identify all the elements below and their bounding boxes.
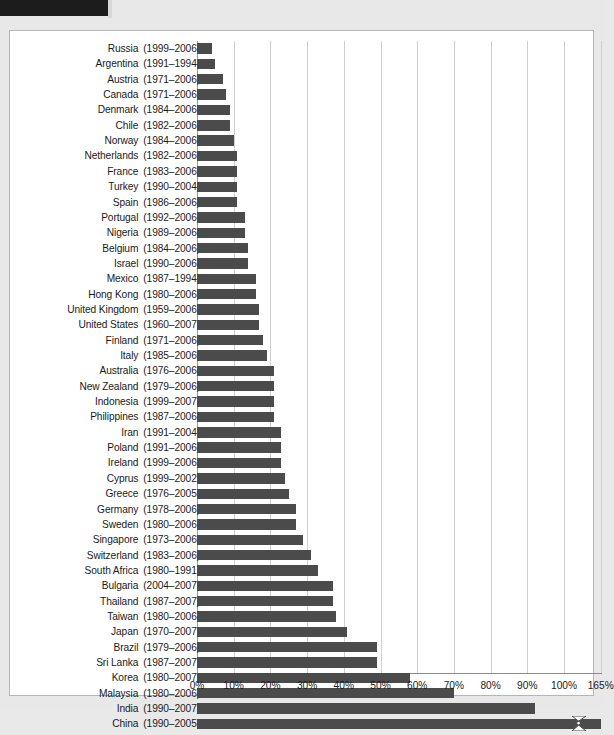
bar-row: Argentina(1991–1994) [10, 56, 595, 71]
bar-row: South Africa(1980–1991) [10, 563, 595, 578]
bar [197, 59, 215, 69]
country-name: Canada [40, 87, 143, 102]
x-tick-label: 80% [480, 680, 500, 691]
bar-row: Sri Lanka(1987–2007) [10, 655, 595, 670]
year-range: (1984–2006) [143, 133, 200, 148]
bar-row-label: Germany(1978–2006) [40, 502, 200, 517]
bar-row: Canada(1971–2006) [10, 87, 595, 102]
x-tick-label: 70% [444, 680, 464, 691]
country-name: Russia [40, 41, 143, 56]
year-range: (1971–2006) [143, 72, 200, 87]
bar-row-label: Chile(1982–2006) [40, 118, 200, 133]
bar [197, 565, 318, 575]
year-range: (1987–2007) [143, 655, 200, 670]
year-range: (1999–2006) [143, 455, 200, 470]
bar-row-label: Korea(1980–2007) [40, 670, 200, 685]
bar-row-label: United States(1960–2007) [40, 317, 200, 332]
year-range: (1980–2006) [143, 287, 200, 302]
bar-row: Mexico(1987–1994) [10, 271, 595, 286]
country-name: Taiwan [40, 609, 143, 624]
bar-row: China(1990–2005) [10, 716, 595, 731]
bar [197, 473, 285, 483]
country-name: Denmark [40, 102, 143, 117]
year-range: (1970–2007) [143, 624, 200, 639]
bar-row: Taiwan(1980–2006) [10, 609, 595, 624]
country-name: United States [40, 317, 143, 332]
country-name: Chile [40, 118, 143, 133]
year-range: (1978–2006) [143, 502, 200, 517]
country-name: Spain [40, 195, 143, 210]
year-range: (1999–2002) [143, 471, 200, 486]
year-range: (1990–2007) [143, 701, 200, 716]
x-tick-label: 30% [297, 680, 317, 691]
year-range: (1980–1991) [143, 563, 200, 578]
year-range: (1987–1994) [143, 271, 200, 286]
bar [197, 89, 226, 99]
country-name: Finland [40, 333, 143, 348]
country-name: New Zealand [40, 379, 143, 394]
year-range: (1991–2004) [143, 425, 200, 440]
country-name: Israel [40, 256, 143, 271]
bar [197, 197, 237, 207]
bar-row-label: Taiwan(1980–2006) [40, 609, 200, 624]
bar-row: Bulgaria(2004–2007) [10, 578, 595, 593]
bar-row-label: France(1983–2006) [40, 164, 200, 179]
bar [197, 43, 212, 53]
country-name: Cyprus [40, 471, 143, 486]
bar-row-label: United Kingdom(1959–2006) [40, 302, 200, 317]
country-name: Argentina [40, 56, 143, 71]
bar-row-label: Spain(1986–2006) [40, 195, 200, 210]
bar [197, 335, 263, 345]
country-name: Austria [40, 72, 143, 87]
axis-break-zigzag-icon [568, 716, 590, 730]
country-name: Italy [40, 348, 143, 363]
bar-row-label: Switzerland(1983–2006) [40, 548, 200, 563]
bar-row-label: New Zealand(1979–2006) [40, 379, 200, 394]
bar-row: Poland(1991–2006) [10, 440, 595, 455]
x-tick-label: 0% [190, 680, 205, 691]
bar [197, 627, 347, 637]
year-range: (1980–2006) [143, 517, 200, 532]
bar [197, 258, 248, 268]
bar-row: Russia(1999–2006) [10, 41, 595, 56]
bar [197, 719, 601, 729]
bar [197, 228, 245, 238]
year-range: (1973–2006) [143, 532, 200, 547]
bar [197, 458, 281, 468]
bar-row: Israel(1990–2006) [10, 256, 595, 271]
bar-row: Nigeria(1989–2006) [10, 225, 595, 240]
bar [197, 642, 377, 652]
country-name: Singapore [40, 532, 143, 547]
year-range: (1980–2006) [143, 609, 200, 624]
bar-row: Austria(1971–2006) [10, 72, 595, 87]
bar-row-label: Malaysia(1980–2006) [40, 686, 200, 701]
x-tick-label: 20% [260, 680, 280, 691]
page-header-block [0, 0, 108, 16]
bar-row: Chile(1982–2006) [10, 118, 595, 133]
bar [197, 366, 274, 376]
bar-row-label: Singapore(1973–2006) [40, 532, 200, 547]
bar [197, 611, 336, 621]
year-range: (1987–2007) [143, 594, 200, 609]
year-range: (1983–2006) [143, 548, 200, 563]
gridline-165 [601, 41, 602, 673]
bar-row-label: Austria(1971–2006) [40, 72, 200, 87]
bar [197, 320, 259, 330]
country-name: Korea [40, 670, 143, 685]
year-range: (1982–2006) [143, 148, 200, 163]
bar-row-label: Philippines(1987–2006) [40, 409, 200, 424]
bar-row: India(1990–2007) [10, 701, 595, 716]
country-name: Belgium [40, 241, 143, 256]
bar-row: Indonesia(1999–2007) [10, 394, 595, 409]
country-name: China [40, 716, 143, 731]
bar-row: New Zealand(1979–2006) [10, 379, 595, 394]
bar-row-label: Thailand(1987–2007) [40, 594, 200, 609]
bar-row-label: India(1990–2007) [40, 701, 200, 716]
country-name: Mexico [40, 271, 143, 286]
year-range: (1990–2006) [143, 256, 200, 271]
bar [197, 396, 274, 406]
bar-row-label: Turkey(1990–2004) [40, 179, 200, 194]
year-range: (1999–2006) [143, 41, 200, 56]
x-tick-label: 90% [517, 680, 537, 691]
